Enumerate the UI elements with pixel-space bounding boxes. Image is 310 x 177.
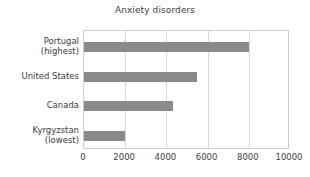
y-axis-label: Portugal(highest): [0, 36, 79, 56]
x-axis-tick-label: 4000: [155, 152, 177, 162]
y-axis-label-line: (lowest): [0, 135, 79, 145]
y-axis-label-line: (highest): [0, 46, 79, 56]
x-axis-tick-labels: 0200040006000800010000: [0, 152, 310, 166]
bar: [84, 42, 249, 52]
y-axis-label-line: Portugal: [0, 36, 79, 46]
x-axis-tick-label: 10000: [275, 152, 302, 162]
chart-container: Anxiety disorders Portugal(highest)Unite…: [0, 0, 310, 177]
y-axis-label-line: Kyrgyzstan: [0, 125, 79, 135]
y-axis-label-line: Canada: [0, 100, 79, 110]
y-axis-label: Kyrgyzstan(lowest): [0, 125, 79, 145]
y-axis-label: United States: [0, 71, 79, 81]
plot-area: [83, 30, 289, 149]
x-axis-tick-label: 0: [80, 152, 85, 162]
y-axis-label: Canada: [0, 100, 79, 110]
y-axis-label-line: United States: [0, 71, 79, 81]
bar: [84, 101, 173, 111]
x-axis-tick-label: 8000: [237, 152, 259, 162]
chart-title: Anxiety disorders: [0, 5, 310, 15]
bars: [84, 31, 288, 148]
x-axis-tick-label: 2000: [113, 152, 135, 162]
y-axis-category-labels: Portugal(highest)United StatesCanadaKyrg…: [0, 30, 79, 149]
bar: [84, 72, 197, 82]
bar: [84, 131, 125, 141]
x-axis-tick-label: 6000: [196, 152, 218, 162]
